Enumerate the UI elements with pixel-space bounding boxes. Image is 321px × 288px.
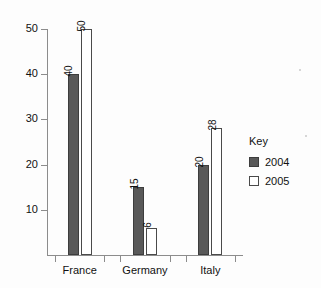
- y-tick-label: 50: [0, 23, 38, 34]
- x-axis-line: [47, 255, 243, 256]
- bar-france-2005: 50: [81, 29, 92, 255]
- y-axis-line: [47, 29, 48, 256]
- legend-item-2005[interactable]: 2005: [249, 175, 315, 187]
- x-category-label-france: France: [47, 264, 112, 276]
- scan-speck: [305, 135, 307, 137]
- y-tick-label: 20: [0, 159, 38, 170]
- bar-italy-2004: 20: [198, 165, 209, 255]
- bar-france-2004: 40: [68, 74, 79, 255]
- x-category-label-italy: Italy: [178, 264, 243, 276]
- bar-value-label: 6: [143, 222, 153, 228]
- legend-swatch-2004: [249, 157, 259, 167]
- y-tick-label: 40: [0, 68, 38, 79]
- y-tick-label: 30: [0, 113, 38, 124]
- legend-label-2005: 2005: [265, 175, 289, 187]
- x-tick-mark: [120, 256, 121, 262]
- x-category-label-germany: Germany: [112, 264, 177, 276]
- legend-item-2004[interactable]: 2004: [249, 156, 315, 168]
- bar-value-label: 40: [64, 66, 74, 77]
- y-tick-mark: [41, 119, 47, 120]
- x-tick-mark: [170, 256, 171, 262]
- legend-items: 20042005: [249, 156, 315, 187]
- bar-italy-2005: 28: [211, 128, 222, 255]
- x-tick-mark: [55, 256, 56, 262]
- legend-label-2004: 2004: [265, 156, 289, 168]
- bar-germany-2005: 6: [146, 228, 157, 255]
- bar-value-label: 28: [208, 120, 218, 131]
- y-tick-mark: [41, 165, 47, 166]
- x-tick-mark: [104, 256, 105, 262]
- bar-value-label: 15: [130, 179, 140, 190]
- x-tick-mark: [186, 256, 187, 262]
- bar-chart-figure: 1020304050 40501562028 FranceGermanyItal…: [0, 0, 321, 288]
- bar-value-label: 50: [77, 20, 87, 31]
- bar-value-label: 20: [195, 156, 205, 167]
- y-tick-label: 10: [0, 204, 38, 215]
- y-tick-mark: [41, 74, 47, 75]
- x-tick-mark: [235, 256, 236, 262]
- y-tick-mark: [41, 210, 47, 211]
- legend-swatch-2005: [249, 176, 259, 186]
- legend: Key 20042005: [249, 135, 315, 194]
- scan-speck: [299, 69, 301, 71]
- y-tick-mark: [41, 29, 47, 30]
